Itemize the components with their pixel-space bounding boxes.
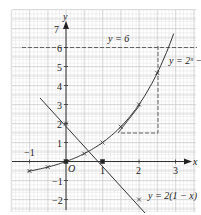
- y-tick-4: 4: [57, 81, 62, 92]
- origin-label: O: [68, 163, 75, 174]
- y-tick-neg1: −1: [52, 176, 63, 187]
- x-tick-1: 1: [100, 165, 105, 176]
- y-tick-3: 3: [57, 100, 62, 111]
- y-tick-neg2: −2: [52, 195, 63, 206]
- y-tick-2: 2: [57, 119, 62, 130]
- asymptote-label: y = 6: [107, 33, 129, 44]
- y-tick-5: 5: [57, 62, 62, 73]
- graph: y x O 7 6 5 4 3 2 1 −1 −2 −1 1 2 3 y = 6…: [0, 0, 201, 215]
- line-curve-label: y = 2(1 − x): [147, 190, 198, 202]
- x-tick-neg1: −1: [24, 147, 35, 158]
- grid: [12, 10, 196, 212]
- x-tick-2: 2: [136, 165, 141, 176]
- grid-major: [11, 10, 196, 213]
- y-tick-7: 7: [54, 24, 59, 35]
- y-axis-label: y: [62, 11, 68, 22]
- x-tick-3: 3: [173, 165, 178, 176]
- y-tick-6: 6: [57, 43, 62, 54]
- x-axis-label: x: [192, 156, 198, 167]
- exponential-curve-label: y = 2ˣ −: [168, 55, 201, 66]
- y-tick-1: 1: [57, 138, 62, 149]
- markers: [28, 71, 160, 201]
